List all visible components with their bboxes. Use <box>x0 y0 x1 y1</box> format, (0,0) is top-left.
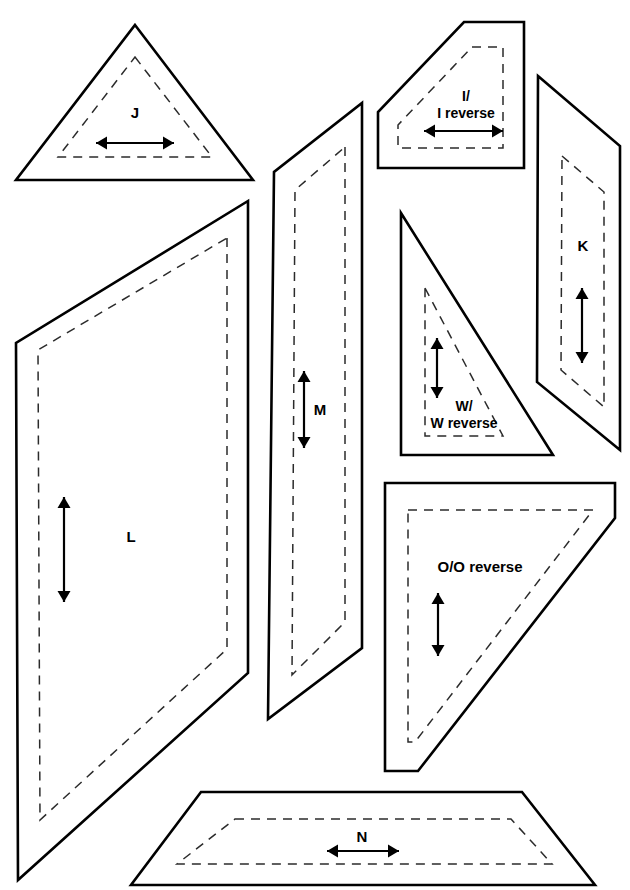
piece-label-N: N <box>357 828 368 845</box>
grain-arrow-L <box>58 497 71 602</box>
piece-label-W: W/W reverse <box>431 397 498 430</box>
seam-line-K <box>561 156 604 407</box>
pattern-piece-I[interactable]: I/I reverse <box>378 22 524 168</box>
grain-arrowhead-start-I <box>424 125 435 138</box>
pattern-piece-N[interactable]: N <box>131 792 595 885</box>
pattern-canvas: JI/I reverseKLMNO/O reverseW/W reverse <box>0 0 630 890</box>
grain-arrowhead-end-K <box>576 352 589 363</box>
pattern-sheet: JI/I reverseKLMNO/O reverseW/W reverse <box>0 0 630 890</box>
piece-label-M: M <box>314 401 327 418</box>
piece-label-line: O/O reverse <box>437 558 522 575</box>
pattern-piece-M[interactable]: M <box>268 103 362 719</box>
piece-label-J: J <box>131 104 139 121</box>
pattern-piece-J[interactable]: J <box>16 25 253 180</box>
grain-arrow-W <box>431 338 444 398</box>
grain-arrowhead-start-K <box>576 288 589 299</box>
pattern-piece-L[interactable]: L <box>16 201 248 880</box>
grain-arrow-O <box>432 593 445 656</box>
piece-label-line: J <box>131 104 139 121</box>
piece-label-O: O/O reverse <box>437 558 522 575</box>
pattern-piece-O[interactable]: O/O reverse <box>385 483 615 771</box>
grain-arrow-N <box>327 845 399 858</box>
piece-label-line: L <box>126 528 135 545</box>
grain-arrowhead-end-W <box>431 387 444 398</box>
grain-arrowhead-start-M <box>298 371 311 382</box>
seam-line-O <box>408 510 593 742</box>
piece-label-line: I/ <box>462 87 470 103</box>
piece-label-line: M <box>314 401 327 418</box>
grain-arrow-M <box>298 371 311 448</box>
grain-arrowhead-start-L <box>58 497 71 508</box>
piece-label-line: K <box>578 237 589 254</box>
cut-line-K <box>537 76 620 450</box>
grain-arrowhead-start-J <box>96 137 107 150</box>
piece-label-line: W reverse <box>431 414 498 430</box>
grain-arrowhead-end-I <box>492 125 503 138</box>
piece-label-I: I/I reverse <box>437 87 495 120</box>
grain-arrowhead-end-N <box>388 845 399 858</box>
piece-label-line: I reverse <box>437 104 495 120</box>
pattern-pieces-layer: JI/I reverseKLMNO/O reverseW/W reverse <box>16 22 620 885</box>
grain-arrowhead-start-W <box>431 338 444 349</box>
pattern-piece-K[interactable]: K <box>537 76 620 450</box>
piece-label-L: L <box>126 528 135 545</box>
grain-arrowhead-end-O <box>432 645 445 656</box>
grain-arrow-I <box>424 125 503 138</box>
grain-arrow-K <box>576 288 589 363</box>
piece-label-K: K <box>578 237 589 254</box>
grain-arrowhead-end-J <box>163 137 174 150</box>
grain-arrowhead-end-M <box>298 437 311 448</box>
grain-arrowhead-start-N <box>327 845 338 858</box>
grain-arrow-J <box>96 137 174 150</box>
cut-line-I <box>378 22 524 168</box>
cut-line-O <box>385 483 615 771</box>
grain-arrowhead-end-L <box>58 591 71 602</box>
seam-line-I <box>398 47 503 148</box>
grain-arrowhead-start-O <box>432 593 445 604</box>
piece-label-line: N <box>357 828 368 845</box>
cut-line-J <box>16 25 253 180</box>
piece-label-line: W/ <box>455 397 472 413</box>
pattern-piece-W[interactable]: W/W reverse <box>401 213 553 455</box>
